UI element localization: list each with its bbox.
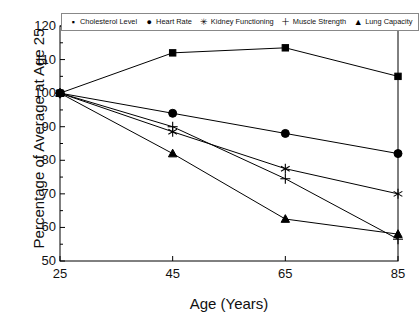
x-axis-title: Age (Years)	[60, 295, 398, 312]
legend-label: Kidney Functioning	[211, 17, 274, 27]
series-cholesterol-level-marker	[395, 73, 401, 79]
legend-label: Cholesterol Level	[80, 17, 137, 27]
chart-legend: ▪Cholesterol Level●Heart Rate✳Kidney Fun…	[61, 13, 419, 31]
series-cholesterol-level-marker	[282, 45, 288, 51]
square-marker-icon: ▪	[68, 18, 78, 27]
x-tick-label: 45	[153, 266, 193, 281]
series-heart-rate-marker	[281, 129, 289, 137]
series-line-muscle-strength	[60, 93, 398, 239]
plus-marker-icon: ＋	[281, 18, 291, 27]
series-lung-capacity-marker	[281, 215, 289, 223]
legend-item-muscle-strength: ＋Muscle Strength	[281, 17, 346, 27]
x-tick-label: 65	[265, 266, 305, 281]
asterisk-marker-icon: ✳	[199, 18, 209, 27]
series-line-heart-rate	[60, 93, 398, 153]
legend-item-cholesterol-level: ▪Cholesterol Level	[68, 17, 137, 27]
legend-item-lung-capacity: ▲Lung Capacity	[353, 17, 412, 27]
legend-label: Lung Capacity	[365, 17, 412, 27]
series-heart-rate-marker	[394, 150, 402, 158]
x-tick-label: 85	[378, 266, 418, 281]
series-heart-rate-marker	[169, 109, 177, 117]
legend-label: Heart Rate	[156, 17, 192, 27]
series-line-cholesterol-level	[60, 48, 398, 93]
series-cholesterol-level-marker	[169, 50, 175, 56]
legend-item-heart-rate: ●Heart Rate	[144, 17, 192, 27]
y-axis-title: Percentage of Average at Age 25	[30, 9, 47, 269]
legend-item-kidney-functioning: ✳Kidney Functioning	[199, 17, 274, 27]
series-lung-capacity-marker	[168, 149, 176, 157]
legend-label: Muscle Strength	[293, 17, 346, 27]
plot-frame	[60, 26, 398, 261]
triangle-marker-icon: ▲	[353, 18, 363, 27]
series-line-lung-capacity	[60, 93, 398, 234]
circle-marker-icon: ●	[144, 18, 154, 27]
